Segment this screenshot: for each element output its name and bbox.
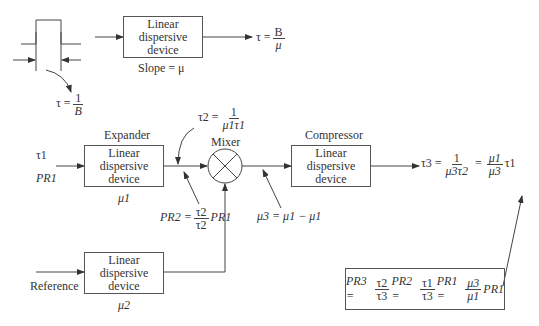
expander-param: μ1: [118, 192, 130, 204]
mu3-equation: μ3 = μ1 − μ1: [257, 210, 321, 222]
slope-label: Slope = μ: [138, 62, 185, 74]
reference-dispersive-device: Lineardispersivedevice: [84, 252, 164, 294]
eq-lhs: τ =: [56, 96, 71, 110]
box-line: device: [100, 173, 149, 186]
pr3-equation-box: PR3 = τ2τ3 PR2 = τ1τ3 PR1 = μ3μ1 PR1: [345, 268, 505, 310]
box-line: Linear: [139, 18, 188, 31]
top-output-equation: τ =Bμ: [256, 26, 287, 51]
tau3-equation: τ3 =1μ3τ2 = μ1μ3τ1: [421, 152, 516, 177]
eq-rhs: PR1: [211, 210, 232, 224]
eq-lhs: PR2 =: [160, 210, 192, 224]
eq-den: τ3: [375, 290, 390, 302]
mixer-title: Mixer: [211, 136, 240, 148]
eq-den: μ3: [487, 165, 503, 177]
tau2-equation: τ2 =1μ1τ1: [198, 106, 249, 131]
box-line: Linear: [307, 147, 356, 160]
box-line: Linear: [100, 254, 149, 267]
expander-title: Expander: [104, 129, 150, 141]
pulse-width-equation: τ =1B: [56, 92, 86, 117]
eq-den: μ: [274, 39, 284, 51]
pulse-shape: [21, 20, 81, 44]
input-power: PR1: [36, 172, 57, 184]
top-dispersive-device: Lineardispersivedevice: [123, 16, 203, 58]
box-line: Linear: [100, 147, 149, 160]
box-line: device: [307, 173, 356, 186]
eq-lhs: PR3 =: [346, 274, 373, 304]
box-line: device: [139, 44, 188, 57]
box-line: device: [100, 280, 149, 293]
box-line: dispersive: [100, 267, 149, 280]
eq-den: μ1: [465, 290, 481, 302]
expander-dispersive-device: Lineardispersivedevice: [84, 145, 164, 187]
eq-term: PR1 =: [437, 274, 464, 304]
eq-den: τ3: [420, 290, 435, 302]
box-line: dispersive: [139, 31, 188, 44]
input-tau: τ1: [36, 149, 47, 161]
eq-lhs: τ3 =: [421, 156, 442, 170]
compressor-dispersive-device: Lineardispersivedevice: [291, 145, 371, 187]
eq-den: τ2: [194, 219, 209, 231]
eq-rhs: τ1: [505, 156, 516, 170]
eq-num: τ2: [375, 277, 390, 290]
eq-num: μ3: [465, 277, 481, 290]
box-line: dispersive: [307, 160, 356, 173]
eq-num: τ1: [420, 277, 435, 290]
compressor-title: Compressor: [305, 129, 363, 141]
eq-term: PR2 =: [391, 274, 418, 304]
eq-den: B: [73, 105, 84, 117]
eq-den: μ3τ2: [444, 165, 470, 177]
reference-label: Reference: [30, 280, 79, 292]
eq-term: PR1: [483, 282, 504, 297]
reference-param: μ2: [118, 299, 130, 311]
box-line: dispersive: [100, 160, 149, 173]
eq-lhs: τ2 =: [198, 110, 219, 124]
pr2-equation: PR2 =τ2τ2PR1: [160, 206, 231, 231]
eq-den: μ1τ1: [221, 119, 247, 131]
eq-lhs: τ =: [256, 30, 271, 44]
